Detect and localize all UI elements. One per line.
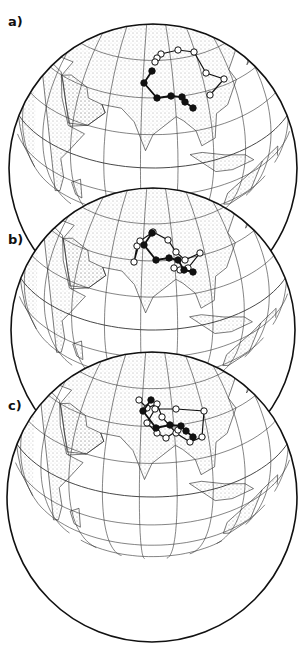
- open-circle-marker: [163, 435, 169, 441]
- filled-circle-marker: [166, 255, 172, 261]
- filled-circle-marker: [178, 423, 184, 429]
- filled-circle-marker: [149, 230, 155, 236]
- open-circle-marker: [152, 59, 158, 65]
- filled-circle-marker: [168, 93, 174, 99]
- open-circle-marker: [131, 259, 137, 265]
- filled-circle-marker: [149, 68, 155, 74]
- open-circle-marker: [182, 257, 188, 263]
- filled-circle-marker: [140, 408, 146, 414]
- filled-circle-marker: [183, 428, 189, 434]
- open-circle-marker: [159, 414, 165, 420]
- panel-label-c: c): [8, 398, 22, 413]
- open-circle-marker: [201, 408, 207, 414]
- open-circle-marker: [152, 406, 158, 412]
- filled-circle-marker: [167, 422, 173, 428]
- open-circle-marker: [221, 76, 227, 82]
- open-circle-marker: [197, 250, 203, 256]
- figure-canvas: [0, 0, 307, 656]
- open-circle-marker: [171, 265, 177, 271]
- filled-circle-marker: [190, 434, 196, 440]
- filled-circle-marker: [141, 80, 147, 86]
- open-circle-marker: [165, 237, 171, 243]
- panel-label-a: a): [8, 14, 23, 29]
- filled-circle-marker: [148, 397, 154, 403]
- open-circle-marker: [199, 434, 205, 440]
- open-circle-marker: [191, 49, 197, 55]
- filled-circle-marker: [182, 99, 188, 105]
- filled-circle-marker: [181, 267, 187, 273]
- open-circle-marker: [173, 406, 179, 412]
- open-circle-marker: [144, 420, 150, 426]
- open-circle-marker: [207, 92, 213, 98]
- filled-circle-marker: [153, 257, 159, 263]
- filled-circle-marker: [190, 105, 196, 111]
- filled-circle-marker: [141, 242, 147, 248]
- filled-circle-marker: [190, 269, 196, 275]
- panel-label-b: b): [8, 232, 23, 247]
- filled-circle-marker: [154, 95, 160, 101]
- open-circle-marker: [203, 70, 209, 76]
- open-circle-marker: [173, 249, 179, 255]
- open-circle-marker: [136, 397, 142, 403]
- open-circle-marker: [175, 47, 181, 53]
- filled-circle-marker: [153, 425, 159, 431]
- filled-circle-marker: [175, 257, 181, 263]
